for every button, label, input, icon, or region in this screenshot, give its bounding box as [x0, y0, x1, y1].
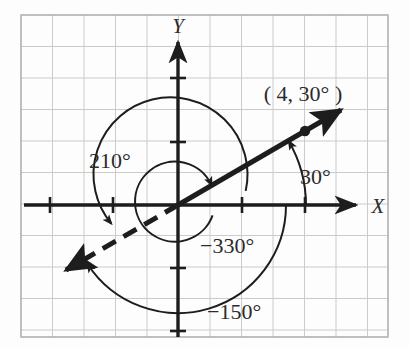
arc-label-minus-150: −150° [207, 299, 261, 324]
polar-coordinate-figure: Y X ( 4, 30° ) 210° −330° −150° 30° [0, 0, 409, 349]
point-label: ( 4, 30° ) [264, 81, 342, 106]
arc-label-210: 210° [89, 148, 131, 173]
polar-diagram-svg: Y X ( 4, 30° ) 210° −330° −150° 30° [0, 0, 409, 349]
x-axis-label: X [371, 194, 386, 218]
plotted-point-dot [300, 126, 310, 136]
arc-label-30: 30° [300, 164, 331, 189]
arc-label-minus-330: −330° [200, 233, 254, 258]
